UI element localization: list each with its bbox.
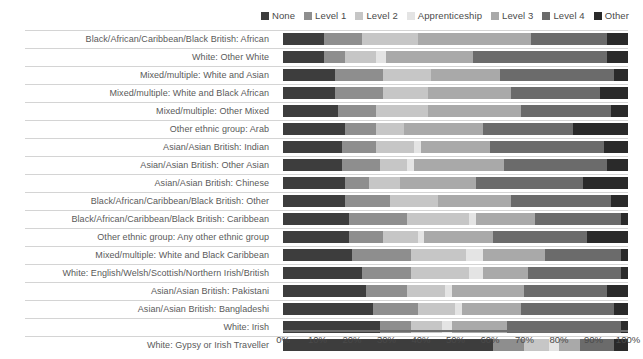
bar-segment[interactable] [283, 267, 362, 279]
bar-segment[interactable] [621, 249, 628, 261]
bar-segment[interactable] [431, 69, 500, 81]
bar-segment[interactable] [421, 141, 490, 153]
bar-segment[interactable] [362, 33, 417, 45]
bar-segment[interactable] [283, 213, 349, 225]
bar-segment[interactable] [345, 195, 390, 207]
bar-segment[interactable] [383, 87, 428, 99]
bar-segment[interactable] [400, 177, 476, 189]
legend-item[interactable]: None [261, 10, 295, 21]
bar-segment[interactable] [345, 123, 376, 135]
bar-segment[interactable] [376, 51, 386, 63]
bar-segment[interactable] [469, 213, 476, 225]
bar-segment[interactable] [349, 213, 408, 225]
bar-segment[interactable] [383, 69, 431, 81]
bar-segment[interactable] [407, 159, 414, 171]
bar-segment[interactable] [607, 285, 628, 297]
legend-item[interactable]: Apprenticeship [407, 10, 482, 21]
bar-segment[interactable] [462, 303, 521, 315]
bar-segment[interactable] [600, 87, 628, 99]
bar-segment[interactable] [490, 141, 604, 153]
bar-segment[interactable] [452, 285, 524, 297]
bar-segment[interactable] [338, 105, 376, 117]
bar-segment[interactable] [376, 105, 428, 117]
bar-segment[interactable] [283, 177, 345, 189]
bar-segment[interactable] [607, 51, 628, 63]
legend-item[interactable]: Level 1 [304, 10, 346, 21]
bar-segment[interactable] [455, 303, 462, 315]
bar-segment[interactable] [438, 195, 510, 207]
bar-segment[interactable] [414, 159, 504, 171]
bar-segment[interactable] [283, 249, 352, 261]
legend-item[interactable]: Level 4 [542, 10, 584, 21]
bar-segment[interactable] [511, 195, 611, 207]
bar-segment[interactable] [621, 267, 628, 279]
bar-segment[interactable] [483, 123, 573, 135]
bar-segment[interactable] [390, 195, 438, 207]
bar-segment[interactable] [500, 69, 614, 81]
bar-segment[interactable] [283, 141, 342, 153]
bar-segment[interactable] [376, 123, 404, 135]
bar-segment[interactable] [428, 87, 511, 99]
bar-segment[interactable] [535, 213, 621, 225]
bar-segment[interactable] [476, 177, 583, 189]
bar-segment[interactable] [283, 285, 366, 297]
bar-segment[interactable] [414, 141, 421, 153]
bar-segment[interactable] [283, 303, 373, 315]
bar-segment[interactable] [573, 123, 628, 135]
bar-segment[interactable] [428, 105, 521, 117]
bar-segment[interactable] [524, 285, 607, 297]
bar-segment[interactable] [283, 159, 342, 171]
bar-segment[interactable] [604, 141, 628, 153]
legend-item[interactable]: Level 3 [491, 10, 533, 21]
bar-segment[interactable] [473, 51, 608, 63]
bar-segment[interactable] [483, 249, 545, 261]
bar-segment[interactable] [418, 33, 532, 45]
bar-segment[interactable] [493, 231, 586, 243]
bar-segment[interactable] [407, 285, 445, 297]
bar-segment[interactable] [345, 51, 376, 63]
bar-segment[interactable] [476, 213, 535, 225]
bar-segment[interactable] [418, 303, 456, 315]
bar-segment[interactable] [283, 231, 349, 243]
bar-segment[interactable] [407, 213, 469, 225]
bar-segment[interactable] [411, 249, 466, 261]
bar-segment[interactable] [587, 231, 628, 243]
bar-segment[interactable] [362, 267, 410, 279]
bar-segment[interactable] [611, 195, 628, 207]
bar-segment[interactable] [376, 141, 414, 153]
bar-segment[interactable] [483, 267, 528, 279]
bar-segment[interactable] [614, 303, 628, 315]
bar-segment[interactable] [528, 267, 621, 279]
bar-segment[interactable] [373, 303, 418, 315]
bar-segment[interactable] [283, 69, 335, 81]
bar-segment[interactable] [324, 51, 345, 63]
bar-segment[interactable] [611, 105, 628, 117]
bar-segment[interactable] [424, 231, 493, 243]
legend-item[interactable]: Other [594, 10, 629, 21]
bar-segment[interactable] [342, 141, 377, 153]
bar-segment[interactable] [445, 285, 452, 297]
bar-segment[interactable] [335, 87, 383, 99]
bar-segment[interactable] [283, 105, 338, 117]
bar-segment[interactable] [345, 177, 369, 189]
bar-segment[interactable] [283, 123, 345, 135]
bar-segment[interactable] [418, 231, 425, 243]
bar-segment[interactable] [283, 195, 345, 207]
bar-segment[interactable] [283, 51, 324, 63]
bar-segment[interactable] [342, 159, 380, 171]
bar-segment[interactable] [404, 123, 483, 135]
bar-segment[interactable] [369, 177, 400, 189]
bar-segment[interactable] [521, 105, 611, 117]
bar-segment[interactable] [366, 285, 407, 297]
bar-segment[interactable] [283, 87, 335, 99]
bar-segment[interactable] [545, 249, 621, 261]
bar-segment[interactable] [380, 159, 408, 171]
bar-segment[interactable] [607, 33, 628, 45]
bar-segment[interactable] [583, 177, 628, 189]
bar-segment[interactable] [352, 249, 411, 261]
bar-segment[interactable] [466, 249, 483, 261]
bar-segment[interactable] [349, 231, 384, 243]
bar-segment[interactable] [511, 87, 601, 99]
bar-segment[interactable] [283, 33, 324, 45]
bar-segment[interactable] [469, 267, 483, 279]
